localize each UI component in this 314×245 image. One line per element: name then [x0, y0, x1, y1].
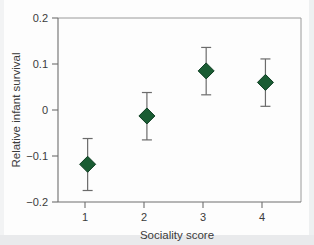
data-point-marker	[198, 63, 214, 79]
data-point-group	[257, 59, 273, 106]
data-point-marker	[139, 108, 155, 124]
data-point-group	[80, 139, 96, 191]
x-tick-labels: 1 2 3 4	[82, 211, 265, 223]
y-tick-label: −0.1	[26, 150, 48, 162]
figure-container: 0.2 0.1 0 −0.1 −0.2 1 2 3 4 Sociality sc…	[0, 0, 314, 245]
plot-frame	[58, 18, 301, 202]
y-tick-label: 0	[42, 104, 48, 116]
x-axis	[58, 202, 301, 208]
data-series	[80, 47, 274, 190]
x-tick-label: 4	[259, 211, 265, 223]
y-tick-label: 0.1	[33, 58, 48, 70]
y-tick-label: −0.2	[26, 196, 48, 208]
y-axis	[52, 18, 58, 202]
x-tick-label: 2	[141, 211, 147, 223]
data-point-marker	[80, 156, 96, 172]
data-point-group	[198, 47, 214, 94]
x-axis-title: Sociality score	[140, 229, 214, 241]
data-point-group	[139, 93, 155, 140]
y-axis-title: Relative infant survival	[10, 52, 22, 167]
x-tick-label: 3	[200, 211, 206, 223]
y-tick-label: 0.2	[33, 12, 48, 24]
scatter-chart: 0.2 0.1 0 −0.1 −0.2 1 2 3 4 Sociality sc…	[0, 0, 314, 245]
y-tick-labels: 0.2 0.1 0 −0.1 −0.2	[26, 12, 48, 208]
x-tick-label: 1	[82, 211, 88, 223]
data-point-marker	[257, 74, 273, 90]
